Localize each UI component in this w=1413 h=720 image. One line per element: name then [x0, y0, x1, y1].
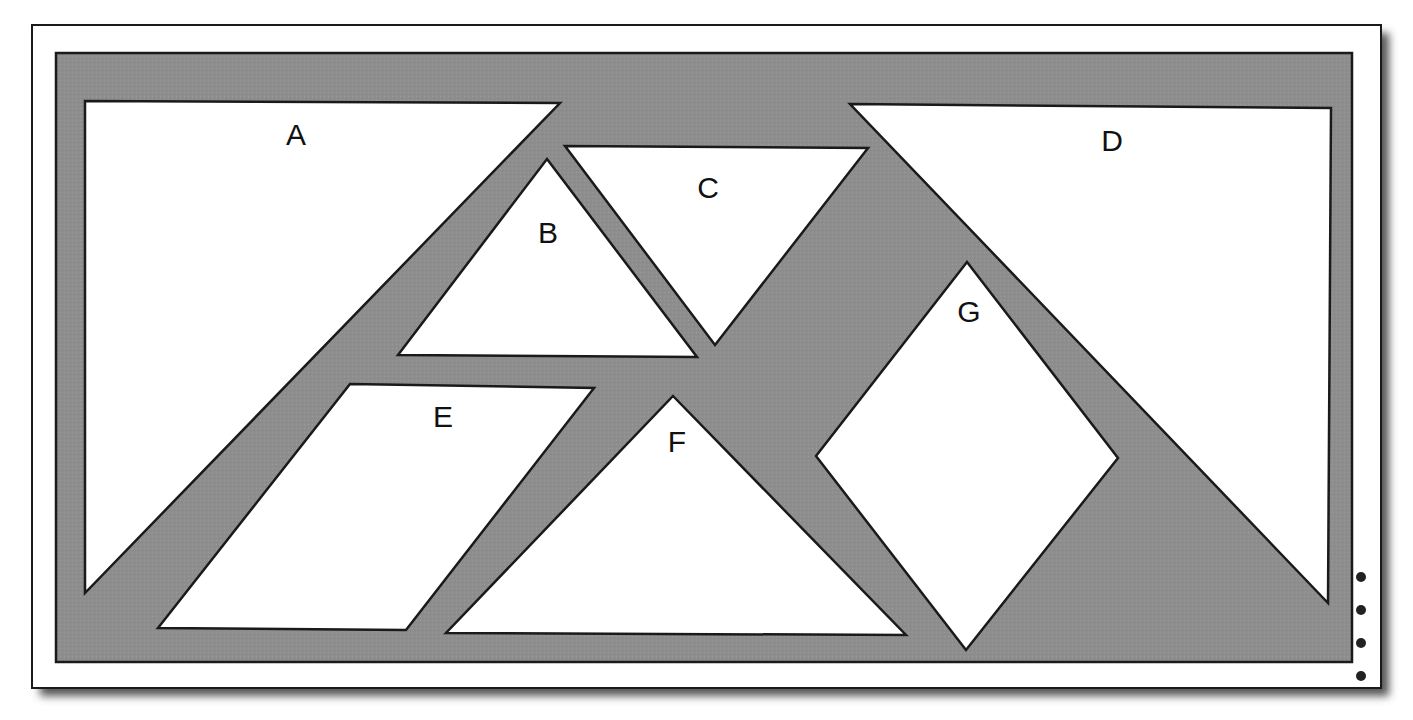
piece-b-label: B	[538, 216, 558, 249]
perforation-dot	[1356, 671, 1366, 681]
piece-c-label: C	[697, 171, 719, 204]
tangram-diagram: ABCDEFG	[0, 0, 1413, 720]
perforation-dot	[1356, 572, 1366, 582]
piece-a-label: A	[286, 118, 306, 151]
piece-g-label: G	[957, 295, 980, 328]
piece-e-label: E	[433, 400, 453, 433]
piece-f-label: F	[668, 425, 686, 458]
piece-d-label: D	[1101, 124, 1123, 157]
perforation-dot	[1356, 605, 1366, 615]
perforation-dot	[1356, 638, 1366, 648]
